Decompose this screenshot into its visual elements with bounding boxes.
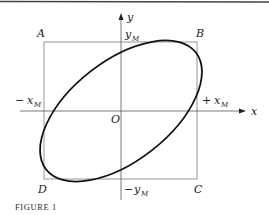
origin-label: O xyxy=(111,113,120,126)
svg-text:M: M xyxy=(140,190,149,198)
svg-text:M: M xyxy=(220,101,229,109)
x-axis-label: x xyxy=(251,105,258,118)
figure-canvas: A B C D O y x y M − y M − x M + x M FIGU… xyxy=(0,0,269,215)
svg-text:M: M xyxy=(131,35,140,43)
corner-label-b: B xyxy=(195,27,204,40)
y-axis-arrow-icon xyxy=(119,13,124,20)
corner-label-c: C xyxy=(194,183,203,196)
bounding-rectangle xyxy=(44,42,197,179)
x-axis-arrow-icon xyxy=(239,109,246,114)
corner-label-a: A xyxy=(36,27,45,40)
plus-x-max-label: + x M xyxy=(202,94,229,109)
plus-y-max-label: y M xyxy=(124,28,140,43)
svg-text:+: + xyxy=(202,94,211,107)
y-axis-label: y xyxy=(126,11,134,24)
svg-text:y: y xyxy=(124,28,132,41)
minus-x-max-label: − x M xyxy=(15,94,42,109)
svg-text:x: x xyxy=(27,94,34,107)
figure-caption: FIGURE 1 xyxy=(15,202,57,212)
svg-text:−: − xyxy=(15,94,24,107)
minus-y-max-label: − y M xyxy=(124,183,149,198)
svg-text:M: M xyxy=(33,101,42,109)
corner-label-d: D xyxy=(37,183,47,196)
svg-text:−: − xyxy=(124,183,133,196)
top-rule xyxy=(0,2,269,3)
svg-text:x: x xyxy=(214,94,221,107)
svg-text:y: y xyxy=(133,183,141,196)
